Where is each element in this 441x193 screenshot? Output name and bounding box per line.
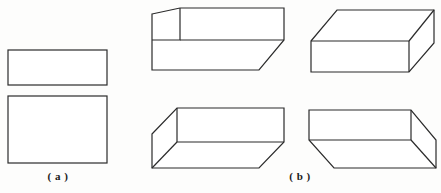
box-top-left-outline [152, 8, 284, 70]
panel-a-caption: ( a ) [38, 170, 78, 182]
figure-container: ( a ) ( b ) [0, 0, 441, 193]
rectangle-upper [8, 50, 107, 85]
box-bottom-right-outline [309, 110, 436, 168]
box-top-left [152, 8, 284, 70]
figure-canvas [0, 0, 441, 193]
rectangle-lower [8, 96, 107, 163]
panel-b-shapes [152, 8, 436, 168]
box-top-right [311, 10, 434, 72]
panel-a-shapes [8, 50, 107, 163]
box-bottom-right [309, 110, 436, 168]
panel-b-caption: ( b ) [280, 170, 320, 182]
box-bottom-left [152, 108, 284, 168]
box-bottom-left-outline [152, 108, 284, 168]
